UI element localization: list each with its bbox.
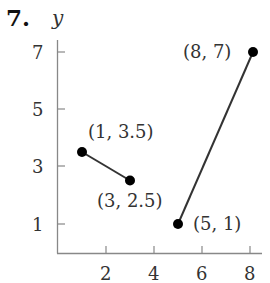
y-tick-label: 5 <box>32 99 43 120</box>
x-tick-label: 4 <box>148 263 159 283</box>
y-tick-label: 7 <box>32 42 43 63</box>
point-label: (3, 2.5) <box>97 190 163 211</box>
point-label: (8, 7) <box>183 41 231 62</box>
data-point <box>173 219 183 229</box>
data-point <box>125 176 135 186</box>
segment-1 <box>82 152 130 181</box>
chart: y 7 5 3 1 2 4 6 8 (1, 3.5) (3, 2.5) (5, … <box>0 0 270 283</box>
data-point <box>248 47 258 57</box>
x-tick-label: 8 <box>244 263 255 283</box>
x-ticks <box>106 246 250 254</box>
point-label: (5, 1) <box>193 213 241 234</box>
data-point <box>77 147 87 157</box>
x-tick-label: 2 <box>100 263 111 283</box>
segment-2 <box>178 52 253 224</box>
y-axis-label: y <box>51 6 64 30</box>
y-tick-label: 1 <box>32 214 43 235</box>
y-tick-label: 3 <box>32 156 43 177</box>
y-ticks <box>58 52 66 224</box>
point-label: (1, 3.5) <box>88 121 154 142</box>
x-tick-label: 6 <box>196 263 207 283</box>
